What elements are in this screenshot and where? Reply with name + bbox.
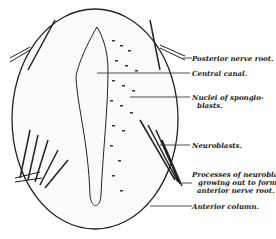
label-neuroblasts: Neuroblasts. xyxy=(192,142,242,150)
label-nuclei-spongioblasts-2: blasts. xyxy=(197,102,223,110)
label-posterior-nerve-root: Posterior nerve root. xyxy=(192,55,273,63)
label-processes-3: anterior nerve root. xyxy=(197,187,274,195)
label-central-canal: Central canal. xyxy=(192,70,247,78)
label-anterior-column: Anterior column. xyxy=(192,203,259,211)
